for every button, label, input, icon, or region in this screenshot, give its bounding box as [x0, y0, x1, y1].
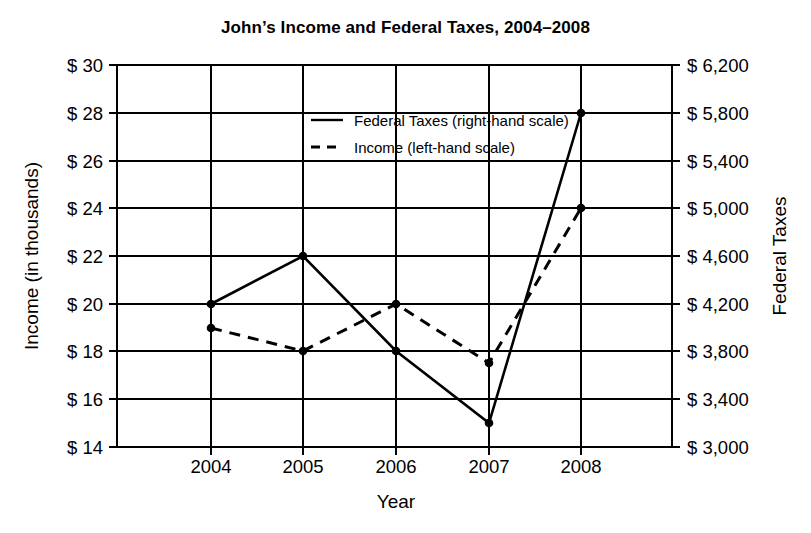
right-tick-label: $ 5,000: [687, 198, 749, 219]
data-point-income-2004: [207, 324, 216, 333]
right-tick-label: $ 4,600: [687, 246, 749, 267]
x-tick-label-2006: 2006: [375, 456, 416, 477]
chart-container: John’s Income and Federal Taxes, 2004–20…: [0, 0, 811, 533]
right-tick-label: $ 3,000: [687, 437, 749, 458]
left-axis-tick-labels: $ 30 $ 28 $ 26 $ 24 $ 22 $ 20 $ 18 $ 16 …: [67, 55, 103, 458]
x-tick-label-2008: 2008: [560, 456, 601, 477]
left-tick-label: $ 16: [67, 389, 103, 410]
data-point-income-2006: [392, 300, 401, 309]
left-tick-label: $ 26: [67, 151, 103, 172]
left-tick-label: $ 22: [67, 246, 103, 267]
legend-entry-federal-taxes: Federal Taxes (right-hand scale): [311, 112, 569, 129]
left-tick-label: $ 28: [67, 103, 103, 124]
x-axis-title: Year: [377, 491, 416, 512]
x-tick-label-2005: 2005: [282, 456, 323, 477]
chart-plot-area: $ 30 $ 28 $ 26 $ 24 $ 22 $ 20 $ 18 $ 16 …: [0, 0, 811, 533]
data-point-income-2008: [577, 204, 586, 213]
legend-entry-income: Income (left-hand scale): [311, 139, 515, 156]
right-tick-label: $ 3,400: [687, 389, 749, 410]
right-axis-title: Federal Taxes: [769, 197, 790, 316]
right-tick-label: $ 6,200: [687, 55, 749, 76]
legend-label-income: Income (left-hand scale): [354, 139, 515, 156]
right-tick-label: $ 4,200: [687, 294, 749, 315]
left-tick-label: $ 20: [67, 294, 103, 315]
left-tick-label: $ 30: [67, 55, 103, 76]
left-tick-label: $ 24: [67, 198, 103, 219]
chart-legend: Federal Taxes (right-hand scale) Income …: [311, 112, 569, 156]
legend-label-federal-taxes: Federal Taxes (right-hand scale): [354, 112, 569, 129]
x-tick-label-2004: 2004: [190, 456, 231, 477]
x-axis-ticks: [211, 447, 581, 455]
right-tick-label: $ 3,800: [687, 341, 749, 362]
right-tick-label: $ 5,400: [687, 151, 749, 172]
data-point-federal-taxes-2006: [392, 347, 401, 356]
data-point-federal-taxes-2008: [577, 109, 586, 118]
data-point-income-2005: [299, 347, 308, 356]
data-point-federal-taxes-2004: [207, 300, 216, 309]
data-point-federal-taxes-2005: [299, 252, 308, 261]
right-axis-tick-labels: $ 6,200 $ 5,800 $ 5,400 $ 5,000 $ 4,600 …: [687, 55, 749, 458]
left-axis-title: Income (in thousands): [21, 162, 42, 350]
data-point-income-2007: [485, 359, 494, 368]
x-tick-label-2007: 2007: [468, 456, 509, 477]
left-tick-label: $ 18: [67, 341, 103, 362]
right-tick-label: $ 5,800: [687, 103, 749, 124]
x-axis-tick-labels: 2004 2005 2006 2007 2008: [190, 456, 601, 477]
left-tick-label: $ 14: [67, 437, 103, 458]
data-point-federal-taxes-2007: [485, 419, 494, 428]
